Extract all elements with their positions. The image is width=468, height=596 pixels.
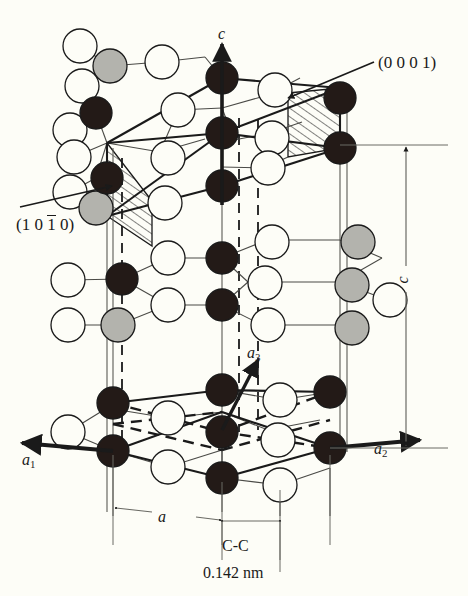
a2-axis-label: a2: [374, 441, 387, 459]
c-dimension-label: c: [395, 276, 411, 283]
a-dimension-label: a: [155, 509, 169, 525]
a2-axis-subscript: 2: [382, 447, 387, 459]
atoms-middle-layer: [51, 225, 407, 345]
a1-axis-subscript: 1: [30, 458, 35, 470]
prism-plane-label: (1 0 1 0): [16, 215, 74, 233]
a1-axis-letter: a: [22, 451, 30, 468]
crystal-structure-drawing: [0, 0, 468, 596]
prism-plane-bar-digit: 1: [47, 215, 56, 233]
basal-plane-label: (0 0 0 1): [378, 54, 436, 71]
c-axis-label: c: [218, 26, 225, 42]
prism-plane-suffix: 0): [56, 215, 74, 234]
a3-axis-letter: a: [247, 344, 255, 361]
a3-axis-subscript: 3: [255, 351, 260, 363]
hatched-prism-plane-left: [107, 143, 152, 246]
a3-axis-label: a3: [247, 345, 260, 363]
carbon-bond-length-label: 0.142 nm: [203, 565, 263, 581]
a1-axis-label: a1: [22, 452, 35, 470]
graphite-structure-figure: c c a3 a1 a2 a (0 0 0 1) (1 0 1 0) C-C 0…: [0, 0, 468, 596]
a2-axis-letter: a: [374, 440, 382, 457]
carbon-bond-label: C-C: [222, 538, 249, 554]
prism-plane-prefix: (1 0: [16, 215, 47, 234]
